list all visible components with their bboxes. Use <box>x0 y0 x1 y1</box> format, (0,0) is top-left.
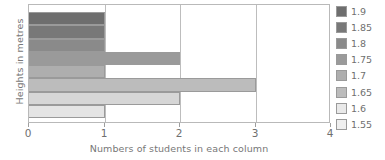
legend: 1.91.851.81.751.71.651.61.55 <box>336 3 384 133</box>
bar-chart: Heights in metres 01234 Numbers of stude… <box>0 0 385 160</box>
legend-item[interactable]: 1.9 <box>336 3 384 19</box>
bar-row <box>29 39 329 52</box>
bar[interactable] <box>29 105 105 118</box>
plot-area <box>28 4 330 123</box>
bar[interactable] <box>29 12 105 25</box>
bar[interactable] <box>29 92 180 105</box>
x-axis-title: Numbers of students in each column <box>28 143 330 154</box>
bar[interactable] <box>29 52 180 65</box>
bars-layer <box>29 5 329 122</box>
legend-item[interactable]: 1.65 <box>336 84 384 100</box>
legend-swatch-icon <box>336 103 347 114</box>
bar[interactable] <box>29 25 105 38</box>
legend-item[interactable]: 1.8 <box>336 35 384 51</box>
x-tick-label: 3 <box>240 127 270 139</box>
bar-row <box>29 78 329 91</box>
bar-row <box>29 52 329 65</box>
x-tick-label: 2 <box>164 127 194 139</box>
legend-label: 1.8 <box>351 38 366 49</box>
bar[interactable] <box>29 78 256 91</box>
legend-label: 1.55 <box>351 119 372 130</box>
bar[interactable] <box>29 65 105 78</box>
legend-label: 1.6 <box>351 103 366 114</box>
legend-label: 1.7 <box>351 70 366 81</box>
legend-swatch-icon <box>336 22 347 33</box>
legend-label: 1.9 <box>351 6 366 17</box>
bar-row <box>29 25 329 38</box>
legend-item[interactable]: 1.85 <box>336 19 384 35</box>
bar[interactable] <box>29 39 105 52</box>
legend-label: 1.75 <box>351 54 372 65</box>
legend-item[interactable]: 1.6 <box>336 100 384 116</box>
bar-row <box>29 92 329 105</box>
legend-swatch-icon <box>336 70 347 81</box>
bar-row <box>29 65 329 78</box>
legend-item[interactable]: 1.55 <box>336 116 384 132</box>
x-tick-label: 0 <box>13 127 43 139</box>
legend-label: 1.85 <box>351 22 372 33</box>
legend-swatch-icon <box>336 6 347 17</box>
legend-swatch-icon <box>336 87 347 98</box>
bar-row <box>29 12 329 25</box>
y-axis-title: Heights in metres <box>14 2 25 122</box>
x-axis-tick-labels: 01234 <box>28 127 330 141</box>
bar-row <box>29 105 329 118</box>
x-tick-label: 1 <box>89 127 119 139</box>
legend-item[interactable]: 1.75 <box>336 52 384 68</box>
legend-swatch-icon <box>336 54 347 65</box>
legend-label: 1.65 <box>351 87 372 98</box>
legend-item[interactable]: 1.7 <box>336 68 384 84</box>
legend-swatch-icon <box>336 38 347 49</box>
legend-swatch-icon <box>336 119 347 130</box>
